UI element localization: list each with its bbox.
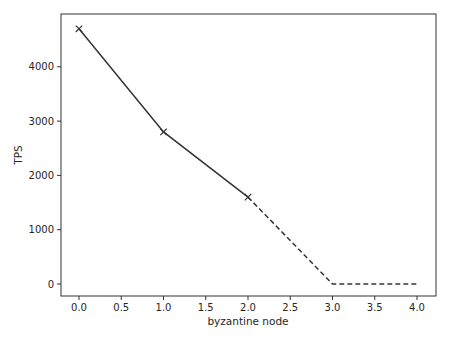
y-axis-label: TPS bbox=[12, 145, 24, 166]
x-tick-label: 2.5 bbox=[282, 302, 298, 313]
x-tick-label: 1.0 bbox=[156, 302, 172, 313]
y-tick-label: 0 bbox=[48, 279, 54, 290]
y-axis: 01000200030004000 bbox=[29, 61, 61, 289]
y-tick-label: 3000 bbox=[29, 116, 54, 127]
y-tick-label: 1000 bbox=[29, 224, 54, 235]
y-tick-label: 2000 bbox=[29, 170, 54, 181]
x-axis-label: byzantine node bbox=[207, 315, 288, 327]
x-tick-label: 3.0 bbox=[325, 302, 341, 313]
y-tick-label: 4000 bbox=[29, 61, 54, 72]
line-chart: 01000200030004000 0.00.51.01.52.02.53.03… bbox=[0, 0, 450, 342]
x-axis: 0.00.51.01.52.02.53.03.54.0 bbox=[71, 296, 425, 313]
x-tick-label: 4.0 bbox=[409, 302, 425, 313]
x-tick-label: 3.5 bbox=[367, 302, 383, 313]
x-tick-label: 1.5 bbox=[198, 302, 214, 313]
x-tick-label: 0.5 bbox=[113, 302, 129, 313]
x-tick-label: 2.0 bbox=[240, 302, 256, 313]
plot-area bbox=[61, 14, 436, 296]
x-tick-label: 0.0 bbox=[71, 302, 87, 313]
